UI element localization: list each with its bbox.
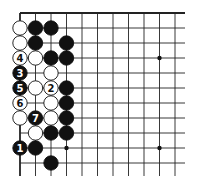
black-stone-disc xyxy=(59,36,73,50)
move-number: 3 xyxy=(17,68,24,79)
black-stone-disc xyxy=(59,126,73,140)
black-stone xyxy=(59,81,73,95)
white-stone xyxy=(28,81,42,95)
white-stone-disc xyxy=(28,81,42,95)
black-stone-disc xyxy=(44,156,58,170)
white-stone-disc xyxy=(28,51,42,65)
black-stone xyxy=(28,21,42,35)
white-stone-disc xyxy=(28,126,42,140)
white-stone xyxy=(44,96,58,110)
black-stone xyxy=(59,96,73,110)
black-stone-disc xyxy=(28,36,42,50)
white-stone-disc xyxy=(13,21,27,35)
black-stone-disc xyxy=(28,21,42,35)
white-stone-disc xyxy=(44,96,58,110)
move-number: 2 xyxy=(48,83,55,94)
black-stone xyxy=(59,36,73,50)
black-stone-7: 7 xyxy=(28,111,42,125)
white-stone-disc xyxy=(13,111,27,125)
white-stone xyxy=(44,66,58,80)
black-stone-disc xyxy=(59,96,73,110)
black-stone-3: 3 xyxy=(13,66,27,80)
black-stone xyxy=(28,141,42,155)
white-stone xyxy=(28,51,42,65)
move-number: 6 xyxy=(17,98,24,109)
star-point xyxy=(157,56,161,60)
black-stone-disc xyxy=(59,81,73,95)
black-stone-5: 5 xyxy=(13,81,27,95)
black-stone xyxy=(59,111,73,125)
white-stone-6: 6 xyxy=(13,96,27,110)
black-stone xyxy=(44,126,58,140)
black-stone-disc xyxy=(44,21,58,35)
white-stone-disc xyxy=(44,111,58,125)
white-stone-disc xyxy=(44,66,58,80)
white-stone xyxy=(13,111,27,125)
white-stone xyxy=(44,111,58,125)
white-stone-2: 2 xyxy=(44,81,58,95)
move-number: 5 xyxy=(17,83,24,94)
black-stone-disc xyxy=(59,51,73,65)
go-board: 4352671 xyxy=(0,0,200,182)
black-stone-disc xyxy=(59,111,73,125)
move-number: 7 xyxy=(32,113,39,124)
white-stone-disc xyxy=(13,36,27,50)
black-stone xyxy=(28,36,42,50)
black-stone-disc xyxy=(28,141,42,155)
black-stone xyxy=(44,156,58,170)
black-stone-1: 1 xyxy=(13,141,27,155)
white-stone xyxy=(28,126,42,140)
white-stone xyxy=(13,36,27,50)
move-number: 4 xyxy=(17,53,24,64)
black-stone xyxy=(59,51,73,65)
board-grid xyxy=(20,13,185,176)
white-stone xyxy=(13,21,27,35)
move-number: 1 xyxy=(17,143,24,154)
white-stone-4: 4 xyxy=(13,51,27,65)
black-stone-disc xyxy=(44,126,58,140)
star-point xyxy=(157,146,161,150)
black-stone-disc xyxy=(44,51,58,65)
black-stone xyxy=(44,21,58,35)
black-stone xyxy=(44,51,58,65)
star-point xyxy=(64,146,68,150)
black-stone xyxy=(59,126,73,140)
